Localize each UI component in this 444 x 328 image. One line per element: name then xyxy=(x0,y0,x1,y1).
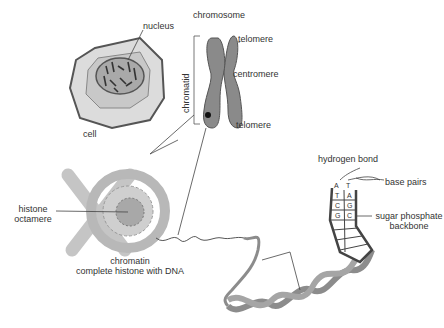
label-chromatin: chromatin complete histone with DNA xyxy=(60,256,200,276)
label-chromosome: chromosome xyxy=(193,10,245,20)
label-histone-octamere: histone octamere xyxy=(10,204,56,224)
base-letter: C xyxy=(347,211,352,221)
base-letter: C xyxy=(335,201,340,211)
label-cell: cell xyxy=(83,129,97,139)
label-centromere: centromere xyxy=(233,69,279,79)
base-letter: A xyxy=(334,181,339,191)
base-letter: G xyxy=(335,211,340,221)
base-letter: T xyxy=(346,181,350,191)
label-nucleus: nucleus xyxy=(143,21,174,31)
label-telomere-top: telomere xyxy=(238,34,273,44)
label-telomere-bottom: telomere xyxy=(236,120,271,130)
label-base-pairs: base pairs xyxy=(385,177,427,187)
label-chromatid: chromatid xyxy=(181,73,191,113)
label-sugar-phosphate-backbone: sugar phosphate backbone xyxy=(372,211,444,231)
label-histone-line1: histone xyxy=(10,204,56,214)
chromatin-illustration xyxy=(56,174,244,250)
base-letter: T xyxy=(335,191,339,201)
base-letter: G xyxy=(347,201,352,211)
base-letter: A xyxy=(347,191,352,201)
diagram-artwork xyxy=(0,0,444,328)
label-chromatin-line1: chromatin xyxy=(60,256,200,266)
label-sugar-line1: sugar phosphate xyxy=(372,211,444,221)
label-hydrogen-bond: hydrogen bond xyxy=(318,154,378,164)
label-histone-line2: octamere xyxy=(10,214,56,224)
label-sugar-line2: backbone xyxy=(372,221,444,231)
label-chromatin-line2: complete histone with DNA xyxy=(60,266,200,276)
